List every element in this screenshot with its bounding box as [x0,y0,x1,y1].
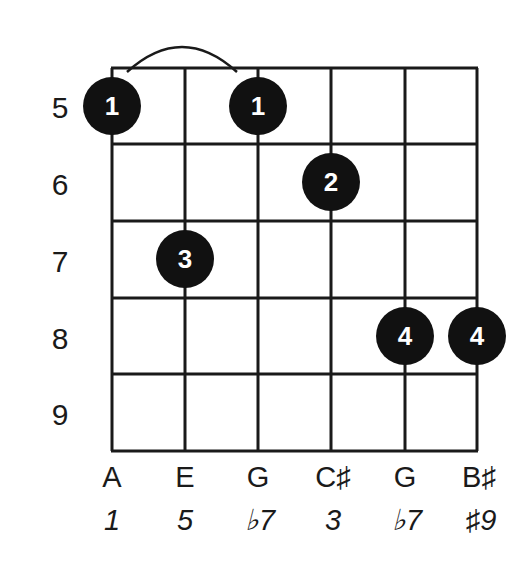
fret-numbers: 5 6 7 8 9 [52,91,69,431]
fret-number: 8 [52,322,69,355]
interval-label: 5 [177,504,194,536]
interval-label: ♭7 [245,504,277,536]
fret-number: 5 [52,91,69,124]
note-name: E [175,461,194,493]
fret-number: 6 [52,168,69,201]
interval-label: 1 [104,504,120,536]
finger-dot: 1 [229,77,287,135]
chord-diagram-svg: 5 6 7 8 9 1 1 2 3 4 4 [0,0,531,580]
intervals: 1 5 ♭7 3 ♭7 ♯9 [104,504,496,536]
finger-dot: 3 [156,230,214,288]
svg-text:3: 3 [178,244,192,274]
note-name: C♯ [315,461,350,493]
fret-number: 9 [52,398,69,431]
note-name: B♯ [462,461,496,493]
fret-number: 7 [52,245,69,278]
finger-dot: 4 [448,307,506,365]
svg-text:2: 2 [324,167,338,197]
note-names: A E G C♯ G B♯ [102,461,496,493]
note-name: G [394,461,417,493]
interval-label: ♯9 [466,504,497,536]
svg-text:1: 1 [105,91,119,121]
svg-text:4: 4 [398,321,413,351]
note-name: A [102,461,122,493]
interval-label: 3 [325,504,341,536]
chord-diagram: 5 6 7 8 9 1 1 2 3 4 4 [0,0,531,580]
finger-dot: 1 [83,77,141,135]
interval-label: ♭7 [392,504,424,536]
finger-dot: 2 [302,153,360,211]
svg-text:4: 4 [470,321,485,351]
svg-text:1: 1 [251,91,265,121]
note-name: G [247,461,270,493]
finger-dot: 4 [376,307,434,365]
